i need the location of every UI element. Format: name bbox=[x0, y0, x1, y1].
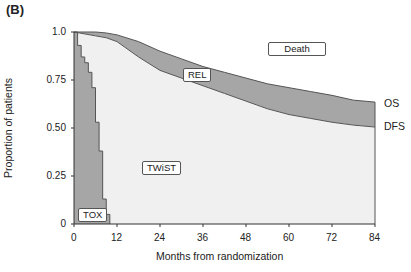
x-tick-60: 60 bbox=[283, 232, 294, 243]
region-label-twist: TWiST bbox=[142, 161, 181, 175]
x-tick-84: 84 bbox=[369, 232, 380, 243]
y-axis-label: Proportion of patients bbox=[2, 78, 14, 178]
end-label-os: OS bbox=[384, 97, 399, 109]
region-label-rel: REL bbox=[183, 68, 211, 82]
region-label-death: Death bbox=[268, 42, 326, 56]
x-tick-48: 48 bbox=[240, 232, 251, 243]
region-label-tox: TOX bbox=[78, 208, 107, 222]
x-tick-36: 36 bbox=[197, 232, 208, 243]
y-tick-1: 1.0 bbox=[36, 26, 66, 37]
x-tick-0: 0 bbox=[71, 232, 77, 243]
x-tick-12: 12 bbox=[111, 232, 122, 243]
y-tick-0: 0 bbox=[36, 218, 66, 229]
y-tick-075: 0.75 bbox=[36, 74, 66, 85]
x-tick-24: 24 bbox=[154, 232, 165, 243]
x-tick-72: 72 bbox=[326, 232, 337, 243]
y-tick-050: 0.50 bbox=[36, 122, 66, 133]
x-axis-label: Months from randomization bbox=[156, 250, 283, 262]
y-tick-025: 0.25 bbox=[36, 170, 66, 181]
end-label-dfs: DFS bbox=[384, 120, 405, 132]
